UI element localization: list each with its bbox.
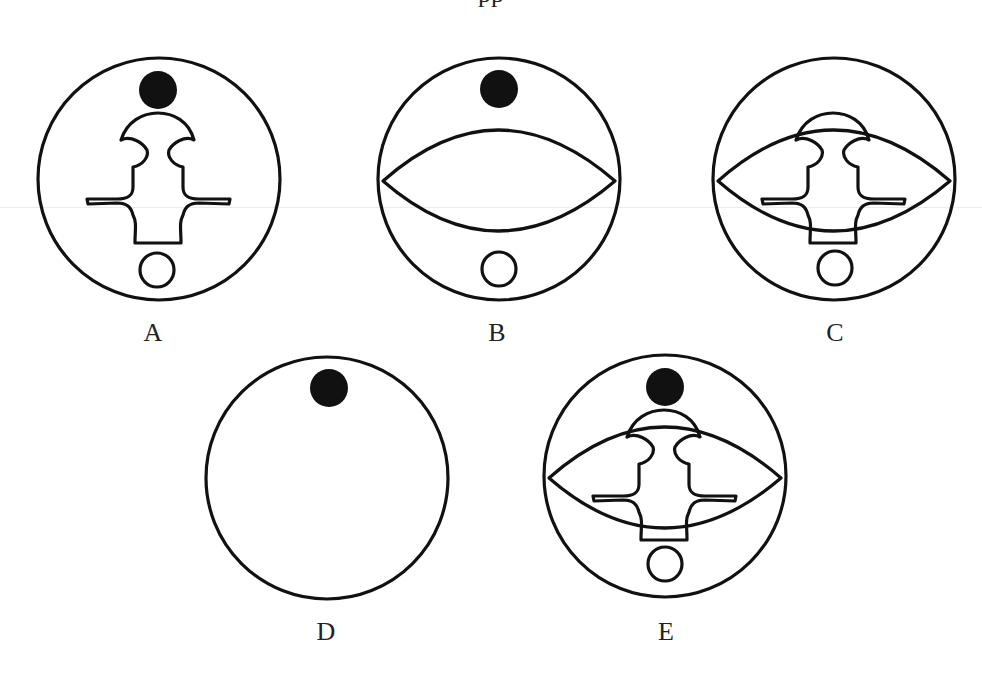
black-dot: [310, 369, 348, 407]
small-open-circle: [482, 252, 516, 286]
outer-circle: [713, 58, 955, 300]
keyhole-figure: [762, 113, 905, 243]
lens: [383, 130, 615, 231]
label-c: C: [815, 318, 855, 348]
small-open-circle: [648, 547, 682, 581]
lens: [549, 427, 781, 528]
keyhole-figure: [87, 113, 230, 243]
black-dot: [480, 70, 518, 108]
label-b: B: [477, 318, 517, 348]
keyhole-figure: [593, 410, 736, 540]
option-e-figure[interactable]: [544, 355, 786, 597]
option-a-figure[interactable]: [38, 58, 280, 300]
label-e: E: [646, 617, 686, 647]
label-a: A: [133, 318, 173, 348]
label-d: D: [306, 617, 346, 647]
small-open-circle: [818, 251, 852, 285]
small-open-circle: [140, 253, 174, 287]
lens: [718, 130, 950, 231]
black-dot: [139, 71, 177, 109]
black-dot: [646, 368, 684, 406]
option-d-figure[interactable]: [206, 357, 448, 599]
option-b-figure[interactable]: [378, 58, 620, 300]
option-c-figure[interactable]: [713, 58, 955, 300]
